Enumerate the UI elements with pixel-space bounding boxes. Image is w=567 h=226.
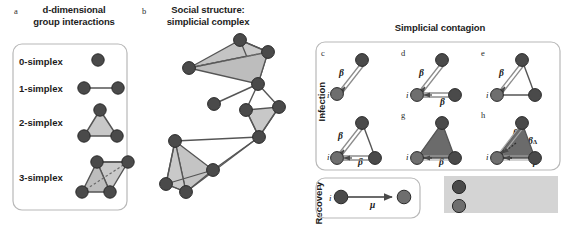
figure-root: a d-dimensional group interactions 0-sim… (0, 0, 567, 226)
glyph-0-simplex (92, 54, 104, 66)
figure-graphics (0, 0, 567, 226)
legend-swatch-susceptible (452, 199, 465, 212)
panel-b-network (160, 34, 286, 199)
glyph-2-simplex (78, 104, 123, 142)
glyph-1-simplex (78, 82, 124, 94)
legend-swatch-infected (452, 180, 465, 193)
subpanel-e-graphic (491, 54, 542, 102)
subpanel-f-graphic (331, 117, 382, 165)
glyph-3-simplex (76, 156, 134, 198)
legend-box (444, 176, 558, 213)
subpanel-i-graphic (334, 190, 411, 204)
subpanel-d-graphic (411, 54, 462, 102)
subpanel-h-graphic (491, 117, 542, 165)
subpanel-c-graphic (331, 54, 369, 101)
subpanel-g-graphic (411, 117, 462, 165)
